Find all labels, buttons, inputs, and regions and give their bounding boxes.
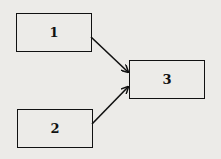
node-3: 3 <box>129 60 205 99</box>
node-1: 1 <box>16 13 92 52</box>
node-1-label: 1 <box>49 25 58 40</box>
edge-1-to-3 <box>91 37 128 72</box>
node-2-label: 2 <box>50 121 59 136</box>
node-2: 2 <box>17 109 93 148</box>
node-3-label: 3 <box>162 72 171 87</box>
edge-2-to-3 <box>92 87 128 124</box>
